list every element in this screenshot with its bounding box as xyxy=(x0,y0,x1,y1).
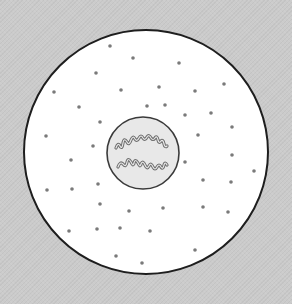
granule-dot xyxy=(201,205,205,209)
granule-dot xyxy=(226,210,230,214)
granule-dot xyxy=(94,71,98,75)
granule-dot xyxy=(230,125,234,129)
granule-dot xyxy=(70,187,74,191)
nucleus xyxy=(107,117,179,189)
granule-dot xyxy=(98,120,102,124)
granule-dot xyxy=(131,56,135,60)
granule-dot xyxy=(95,227,99,231)
granule-dot xyxy=(229,180,233,184)
granule-dot xyxy=(69,158,73,162)
granule-dot xyxy=(118,226,122,230)
granule-dot xyxy=(45,188,49,192)
granule-dot xyxy=(91,144,95,148)
granule-dot xyxy=(98,202,102,206)
granule-dot xyxy=(183,113,187,117)
granule-dot xyxy=(193,89,197,93)
granule-dot xyxy=(108,44,112,48)
granule-dot xyxy=(230,153,234,157)
granule-dot xyxy=(209,111,213,115)
granule-dot xyxy=(44,134,48,138)
granule-dot xyxy=(161,206,165,210)
cell-diagram xyxy=(0,0,292,304)
granule-dot xyxy=(127,209,131,213)
granule-dot xyxy=(114,254,118,258)
granule-dot xyxy=(193,248,197,252)
granule-dot xyxy=(196,133,200,137)
granule-dot xyxy=(252,169,256,173)
diagram-canvas xyxy=(0,0,292,304)
granule-dot xyxy=(52,90,56,94)
granule-dot xyxy=(119,88,123,92)
granule-dot xyxy=(183,160,187,164)
granule-dot xyxy=(201,178,205,182)
granule-dot xyxy=(96,182,100,186)
granule-dot xyxy=(67,229,71,233)
granule-dot xyxy=(148,229,152,233)
granule-dot xyxy=(140,261,144,265)
granule-dot xyxy=(163,103,167,107)
granule-dot xyxy=(77,105,81,109)
granule-dot xyxy=(145,104,149,108)
granule-dot xyxy=(157,85,161,89)
granule-dot xyxy=(222,82,226,86)
granule-dot xyxy=(177,61,181,65)
